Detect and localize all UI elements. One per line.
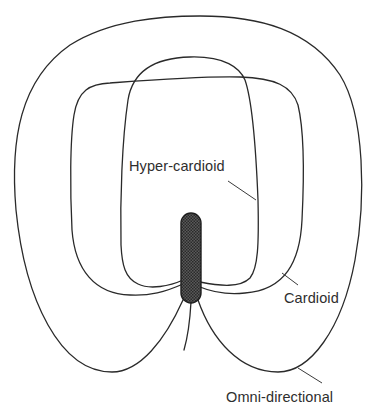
- cardioid-leader: [282, 273, 298, 285]
- omni-directional-label: Omni-directional: [226, 389, 333, 405]
- omni-directional-curve: [14, 16, 361, 372]
- hyper-cardioid-leader: [228, 181, 256, 200]
- microphone-cable: [184, 302, 191, 350]
- omni-directional-leader: [298, 368, 322, 383]
- cardioid-label: Cardioid: [284, 290, 339, 306]
- polar-pattern-diagram: [0, 0, 376, 412]
- hyper-cardioid-label: Hyper-cardioid: [129, 158, 225, 174]
- microphone-body: [181, 213, 201, 303]
